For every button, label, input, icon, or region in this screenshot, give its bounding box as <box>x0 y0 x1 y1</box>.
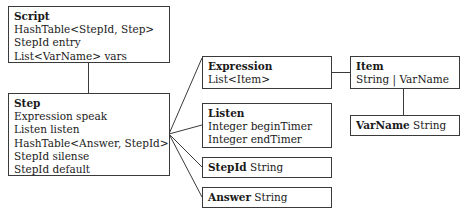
expression-title: Expression <box>208 60 326 73</box>
script-field: HashTable<StepId, Step> <box>14 23 164 36</box>
step-field: StepId default <box>14 163 164 176</box>
varname-class-box: VarName String <box>350 115 460 136</box>
script-field: List<VarName> vars <box>14 50 164 63</box>
script-class-box: Script HashTable<StepId, Step> StepId en… <box>8 6 170 63</box>
listen-title: Listen <box>208 107 326 120</box>
item-title: Item <box>356 60 454 73</box>
step-field: Listen listen <box>14 123 164 136</box>
item-field: String | VarName <box>356 73 454 86</box>
answer-class-box: Answer String <box>202 187 332 208</box>
script-title: Script <box>14 10 164 23</box>
stepid-title: StepId <box>208 161 247 173</box>
step-title: Step <box>14 97 164 110</box>
listen-field: Integer endTimer <box>208 133 326 146</box>
step-field: HashTable<Answer, StepId> <box>14 137 164 150</box>
step-field: StepId silense <box>14 150 164 163</box>
varname-title: VarName <box>356 119 410 131</box>
item-class-box: Item String | VarName <box>350 56 460 89</box>
script-field: StepId entry <box>14 36 164 49</box>
expression-field: List<Item> <box>208 73 326 86</box>
listen-field: Integer beginTimer <box>208 120 326 133</box>
answer-title: Answer <box>208 191 251 203</box>
varname-type: String <box>413 119 446 131</box>
answer-type: String <box>254 191 287 203</box>
step-expression-link <box>169 58 202 134</box>
step-answer-link <box>169 134 202 197</box>
step-listen-link <box>169 125 202 134</box>
stepid-type: String <box>250 161 283 173</box>
step-field: Expression speak <box>14 110 164 123</box>
stepid-class-box: StepId String <box>202 157 332 178</box>
expression-class-box: Expression List<Item> <box>202 56 332 89</box>
step-stepid-link <box>169 134 202 167</box>
step-class-box: Step Expression speak Listen listen Hash… <box>8 93 170 176</box>
listen-class-box: Listen Integer beginTimer Integer endTim… <box>202 103 332 148</box>
